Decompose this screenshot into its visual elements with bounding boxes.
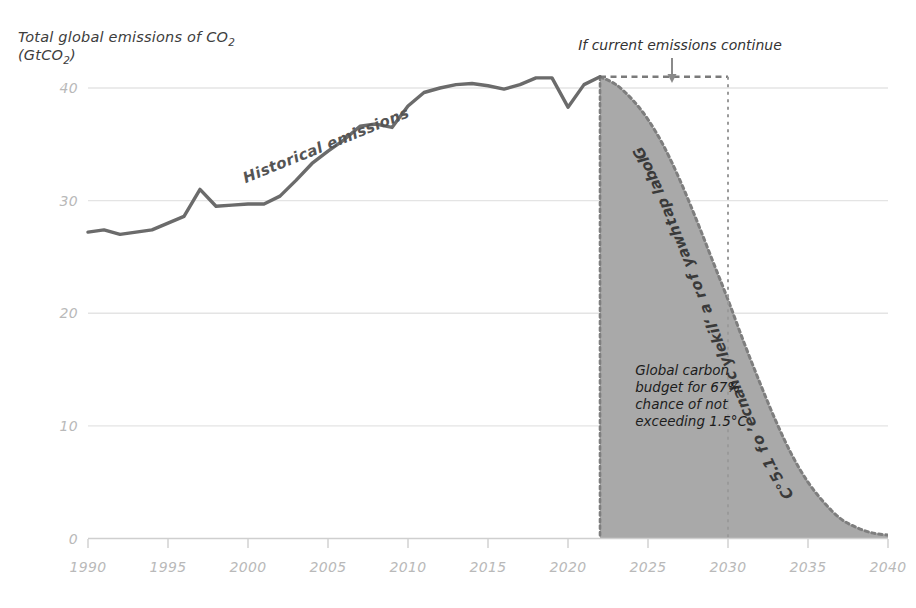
annotation-if-current-emissions-text: If current emissions continue — [578, 37, 782, 53]
carbon-budget-line-2: budget for 67% — [635, 379, 740, 395]
gridlines — [88, 88, 888, 426]
y-tick-20: 20 — [60, 305, 78, 321]
x-tick-2000: 2000 — [230, 559, 267, 575]
x-tick-1995: 1995 — [150, 559, 187, 575]
emissions-chart-svg: Total global emissions of CO2 (GtCO2) 01… — [0, 0, 916, 608]
chart-title: Total global emissions of CO2 (GtCO2) — [18, 29, 235, 66]
x-axis-tick-marks — [88, 539, 888, 548]
annotation-historical-emissions: Historical emissions — [240, 104, 412, 187]
x-tick-2040: 2040 — [870, 559, 907, 575]
x-tick-2005: 2005 — [310, 559, 347, 575]
annotation-historical-emissions-text: Historical emissions — [240, 104, 412, 187]
title-line-1-text: Total global emissions of CO — [18, 29, 228, 45]
x-tick-2020: 2020 — [550, 559, 587, 575]
x-tick-2010: 2010 — [390, 559, 427, 575]
x-tick-2025: 2025 — [630, 559, 667, 575]
title-line-2-end: ) — [69, 47, 76, 63]
annotation-if-current-emissions: If current emissions continue — [578, 37, 782, 83]
down-arrow-icon — [668, 58, 677, 83]
carbon-budget-line-3: chance of not — [635, 396, 728, 412]
title-line-2-text: (GtCO — [18, 47, 63, 63]
title-sub-1: 2 — [228, 36, 235, 48]
carbon-budget-line-1: Global carbon — [635, 362, 729, 378]
x-tick-1990: 1990 — [70, 559, 107, 575]
x-tick-2030: 2030 — [710, 559, 747, 575]
historical-emissions-line — [88, 77, 600, 235]
y-tick-40: 40 — [60, 80, 78, 96]
chart-container: Total global emissions of CO2 (GtCO2) 01… — [0, 0, 916, 608]
x-axis-tick-labels: 1990199520002005201020152020202520302035… — [70, 559, 907, 575]
y-tick-0: 0 — [69, 531, 78, 547]
y-tick-30: 30 — [60, 193, 78, 209]
y-axis-tick-labels: 010203040 — [60, 80, 78, 547]
x-tick-2035: 2035 — [790, 559, 827, 575]
x-tick-2015: 2015 — [470, 559, 507, 575]
y-tick-10: 10 — [60, 418, 78, 434]
carbon-budget-line-4: exceeding 1.5°C — [635, 413, 747, 429]
svg-text:(GtCO2): (GtCO2) — [18, 47, 76, 66]
svg-text:Total global emissions of CO2: Total global emissions of CO2 — [18, 29, 235, 48]
